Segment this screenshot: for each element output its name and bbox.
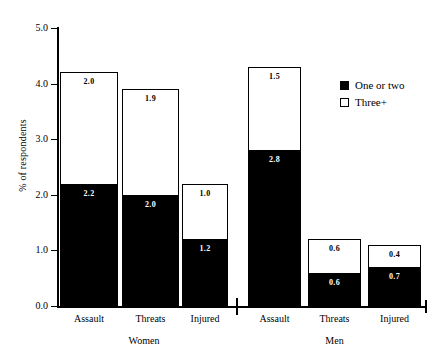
segment-label-three-plus-women-injured: 1.0	[183, 190, 227, 198]
segment-label-three-plus-men-injured: 0.4	[369, 251, 420, 259]
segment-three-plus-men-threats[interactable]: 0.6	[308, 239, 361, 272]
x-category-label-women-injured: Injured	[170, 313, 240, 325]
segment-label-one-or-two-women-injured: 1.2	[182, 245, 228, 253]
segment-label-three-plus-women-threats: 1.9	[123, 95, 178, 103]
bar-women-threats[interactable]: 1.92.0	[122, 89, 179, 306]
legend-label-one-or-two: One or two	[355, 78, 405, 93]
x-axis-line	[57, 306, 427, 308]
clipped-header-text	[14, 0, 414, 4]
y-tick-0	[51, 306, 58, 307]
segment-three-plus-women-injured[interactable]: 1.0	[182, 184, 228, 240]
segment-label-three-plus-men-assault: 1.5	[249, 73, 300, 81]
segment-three-plus-women-assault[interactable]: 2.0	[60, 72, 118, 183]
legend-label-three-plus: Three+	[355, 95, 387, 110]
legend-item-one-or-two[interactable]: One or two	[340, 78, 405, 93]
y-tick-1	[51, 250, 58, 251]
bar-women-assault[interactable]: 2.02.2	[60, 72, 118, 306]
segment-three-plus-men-assault[interactable]: 1.5	[248, 67, 301, 150]
segment-label-one-or-two-women-threats: 2.0	[122, 201, 179, 209]
y-tick-label-0: 0.0	[12, 301, 48, 311]
bar-men-threats[interactable]: 0.60.6	[308, 239, 361, 306]
segment-label-three-plus-women-assault: 2.0	[61, 78, 117, 86]
segment-label-one-or-two-men-injured: 0.7	[368, 273, 421, 281]
y-tick-2	[51, 195, 58, 196]
segment-one-or-two-men-assault[interactable]: 2.8	[248, 150, 301, 306]
y-tick-4	[51, 84, 58, 85]
segment-one-or-two-men-threats[interactable]: 0.6	[308, 273, 361, 306]
bar-men-assault[interactable]: 1.52.8	[248, 67, 301, 306]
y-tick-3	[51, 139, 58, 140]
segment-label-one-or-two-women-assault: 2.2	[60, 190, 118, 198]
segment-label-one-or-two-men-assault: 2.8	[248, 156, 301, 164]
x-category-label-men-injured: Injured	[356, 313, 433, 325]
bar-men-injured[interactable]: 0.40.7	[368, 245, 421, 306]
segment-label-three-plus-men-threats: 0.6	[309, 245, 360, 253]
segment-one-or-two-women-threats[interactable]: 2.0	[122, 195, 179, 306]
y-tick-5	[51, 28, 58, 29]
legend-swatch-filled-square	[340, 81, 349, 90]
y-axis-line	[57, 27, 59, 307]
segment-three-plus-women-threats[interactable]: 1.9	[122, 89, 179, 195]
y-tick-label-5: 5.0	[12, 23, 48, 33]
y-tick-label-1: 1.0	[12, 245, 48, 255]
bar-women-injured[interactable]: 1.01.2	[182, 184, 228, 306]
segment-one-or-two-women-injured[interactable]: 1.2	[182, 239, 228, 306]
segment-one-or-two-women-assault[interactable]: 2.2	[60, 184, 118, 306]
segment-label-one-or-two-men-threats: 0.6	[308, 279, 361, 287]
segment-three-plus-men-injured[interactable]: 0.4	[368, 245, 421, 267]
stacked-bar-chart: 0.01.02.03.04.05.0 % of respondents 2.02…	[0, 0, 440, 362]
x-group-label-women: Women	[94, 335, 194, 347]
legend-swatch-open-square	[340, 98, 349, 107]
axis-end-tick	[425, 300, 427, 313]
segment-one-or-two-men-injured[interactable]: 0.7	[368, 267, 421, 306]
y-axis-title: % of respondents	[17, 86, 28, 226]
legend-item-three-plus[interactable]: Three+	[340, 95, 405, 110]
x-group-label-men: Men	[285, 335, 385, 347]
legend: One or two Three+	[340, 78, 405, 112]
